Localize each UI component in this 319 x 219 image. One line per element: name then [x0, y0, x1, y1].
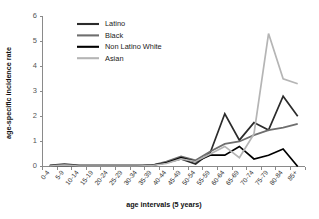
x-tick-label: 50-54: [181, 169, 197, 187]
y-axis-tick-labels: 0123456: [33, 11, 37, 171]
x-tick-label: 40-44: [151, 169, 167, 187]
chart-legend: LatinoBlackNon Latino WhiteAsian: [77, 19, 162, 62]
legend-label-asian: Asian: [105, 54, 124, 63]
x-tick-label: 85+: [286, 169, 298, 182]
y-tick-label: 3: [33, 86, 37, 95]
x-tick-label: 55-59: [195, 169, 211, 187]
x-axis-tick-labels: 0-45-910-1415-1920-2425-2930-3435-3940-4…: [39, 169, 298, 187]
x-tick-label: 25-29: [108, 169, 124, 187]
x-tick-label: 80-84: [268, 169, 284, 187]
y-tick-label: 4: [33, 61, 37, 70]
series-line-latino: [50, 96, 298, 165]
series-line-asian: [50, 34, 298, 166]
x-tick-label: 10-14: [64, 169, 80, 187]
y-tick-label: 2: [33, 111, 37, 120]
x-tick-label: 45-49: [166, 169, 182, 187]
data-series-group: [50, 34, 298, 167]
x-tick-label: 65-69: [224, 169, 240, 187]
x-tick-label: 0-4: [39, 169, 51, 181]
legend-label-black: Black: [105, 31, 123, 40]
x-axis-title: age intervals (5 years): [126, 200, 202, 209]
x-tick-label: 70-74: [239, 169, 255, 187]
x-tick-label: 60-64: [210, 169, 226, 187]
x-tick-label: 15-19: [78, 169, 94, 187]
legend-label-latino: Latino: [105, 19, 125, 28]
series-line-non-latino-white: [50, 146, 298, 166]
y-tick-label: 0: [33, 161, 37, 170]
line-chart: 0-45-910-1415-1920-2425-2930-3435-3940-4…: [0, 0, 319, 219]
x-tick-label: 30-34: [122, 169, 138, 187]
legend-label-non-latino-white: Non Latino White: [105, 42, 162, 51]
x-tick-label: 75-79: [253, 169, 269, 187]
x-tick-label: 5-9: [54, 169, 66, 181]
x-tick-label: 20-24: [93, 169, 109, 187]
y-axis-title: age-specific incidence rate: [4, 47, 13, 139]
chart-container: 0-45-910-1415-1920-2425-2930-3435-3940-4…: [0, 0, 319, 219]
x-tick-label: 35-39: [137, 169, 153, 187]
y-tick-label: 1: [33, 136, 37, 145]
y-tick-label: 5: [33, 36, 37, 45]
y-tick-label: 6: [33, 11, 37, 20]
